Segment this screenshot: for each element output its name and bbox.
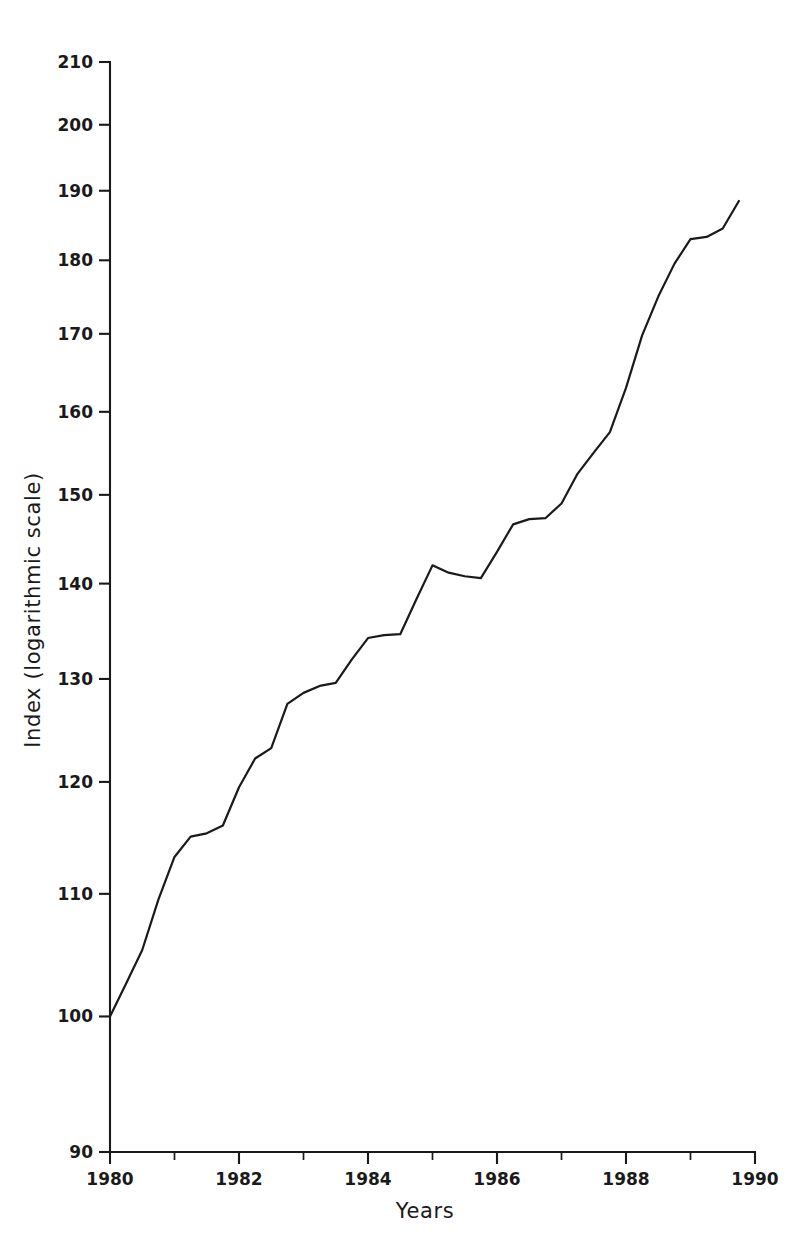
x-axis: 198019821984198619881990 (86, 1152, 778, 1189)
chart-figure: 90100110120130140150160170180190200210 1… (0, 0, 804, 1250)
y-tick-label: 210 (58, 52, 94, 72)
x-tick-label: 1986 (473, 1169, 520, 1189)
y-tick-label: 200 (58, 115, 94, 135)
y-tick-label: 120 (58, 772, 94, 792)
y-tick-label: 180 (58, 250, 94, 270)
x-tick-label: 1984 (344, 1169, 391, 1189)
y-tick-label: 150 (58, 485, 94, 505)
x-tick-label: 1988 (602, 1169, 649, 1189)
y-tick-label: 140 (58, 574, 94, 594)
x-tick-label: 1982 (215, 1169, 262, 1189)
y-tick-label: 190 (58, 181, 94, 201)
y-axis: 90100110120130140150160170180190200210 (58, 52, 111, 1162)
y-tick-label: 110 (58, 884, 94, 904)
data-series (110, 201, 739, 1017)
x-tick-label: 1980 (86, 1169, 133, 1189)
x-tick-label: 1990 (731, 1169, 778, 1189)
series-line-0 (110, 201, 739, 1017)
x-axis-title: Years (395, 1199, 454, 1223)
y-tick-label: 100 (58, 1006, 94, 1026)
y-tick-label: 130 (58, 669, 94, 689)
y-tick-label: 90 (69, 1142, 93, 1162)
y-axis-title: Index (logarithmic scale) (21, 472, 45, 747)
y-tick-label: 160 (58, 402, 94, 422)
y-tick-label: 170 (58, 324, 94, 344)
line-chart: 90100110120130140150160170180190200210 1… (0, 0, 804, 1250)
